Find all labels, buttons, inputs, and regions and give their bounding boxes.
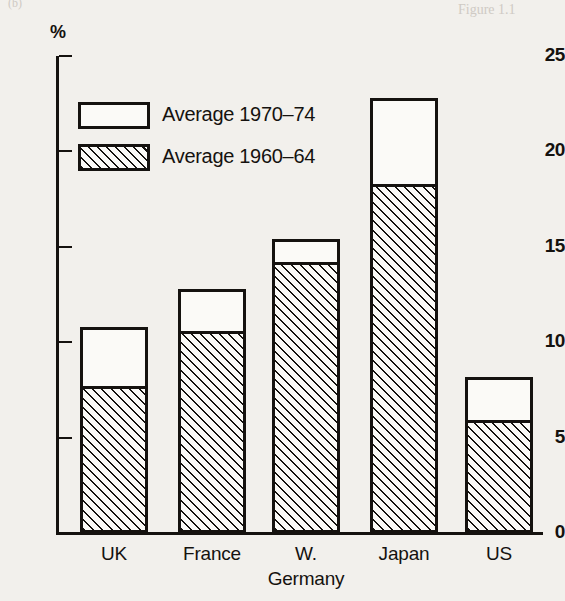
x-axis-label-line1: W. bbox=[250, 541, 362, 566]
bar-segment-1960-64[interactable] bbox=[178, 331, 246, 533]
legend-label: Average 1970–74 bbox=[162, 103, 315, 126]
x-axis-label-2: W.Germany bbox=[250, 541, 362, 591]
x-axis-label-4: US bbox=[443, 541, 555, 566]
bar-wgermany[interactable] bbox=[272, 239, 340, 533]
bar-us[interactable] bbox=[465, 377, 533, 533]
bar-segment-1970-74[interactable] bbox=[465, 377, 533, 421]
bar-segment-1960-64[interactable] bbox=[370, 184, 438, 533]
bar-chart: % 0510152025 UKFranceW.GermanyJapanUS Av… bbox=[0, 0, 565, 601]
x-axis-label-line1: US bbox=[443, 541, 555, 566]
bar-japan[interactable] bbox=[370, 98, 438, 533]
bar-uk[interactable] bbox=[80, 327, 148, 533]
x-axis-label-line1: UK bbox=[58, 541, 170, 566]
x-axis-label-line2: Germany bbox=[250, 566, 362, 591]
legend-label: Average 1960–64 bbox=[162, 145, 315, 168]
bar-segment-1960-64[interactable] bbox=[272, 262, 340, 533]
bar-france[interactable] bbox=[178, 289, 246, 533]
bar-segment-1960-64[interactable] bbox=[465, 420, 533, 533]
bar-segment-1970-74[interactable] bbox=[272, 239, 340, 262]
legend-swatch-white bbox=[78, 102, 150, 129]
bar-segment-1960-64[interactable] bbox=[80, 386, 148, 533]
bar-segment-1970-74[interactable] bbox=[178, 289, 246, 331]
y-axis-unit-label: % bbox=[22, 22, 66, 43]
legend-swatch-hatched bbox=[78, 144, 150, 171]
x-axis-label-0: UK bbox=[58, 541, 170, 566]
bar-segment-1970-74[interactable] bbox=[80, 327, 148, 386]
bar-segment-1970-74[interactable] bbox=[370, 98, 438, 184]
